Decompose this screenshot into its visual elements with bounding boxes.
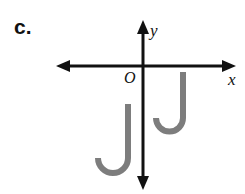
j-shape-left: [98, 104, 128, 173]
origin-label: O: [124, 70, 136, 86]
part-label: c.: [14, 16, 32, 37]
x-axis-left-arrowhead: [56, 60, 70, 72]
y-axis-top-arrowhead: [137, 20, 149, 34]
coordinate-plane-svg: [0, 0, 245, 194]
x-axis-label: x: [228, 71, 236, 88]
coordinate-plane-figure: c. y x O: [0, 0, 245, 194]
j-shape-right: [156, 72, 183, 132]
y-axis-bottom-arrowhead: [137, 176, 149, 190]
y-axis-label: y: [150, 22, 158, 39]
